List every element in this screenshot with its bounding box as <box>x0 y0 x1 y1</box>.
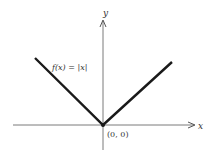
y-axis <box>100 20 106 150</box>
origin-point <box>101 123 105 127</box>
function-label: f(x) = |x| <box>51 63 87 72</box>
abs-value-graph: y x f(x) = |x| (0, 0) <box>0 0 214 160</box>
x-axis-label: x <box>198 121 203 131</box>
origin-label: (0, 0) <box>107 130 129 139</box>
y-axis-label: y <box>102 8 109 18</box>
